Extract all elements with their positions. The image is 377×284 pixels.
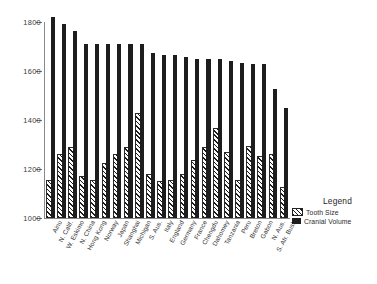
bar-group[interactable] [245, 14, 256, 218]
y-axis-tick-label: 1600 [23, 67, 41, 76]
y-axis-tick-label: 1800 [23, 18, 41, 27]
plot-area: 10001200140016001800 [44, 14, 290, 218]
legend-item-cranial-volume: Cranial Volume [292, 218, 377, 225]
bar-cranial-volume[interactable] [251, 64, 255, 218]
bar-series-container [45, 14, 290, 218]
bar-cranial-volume[interactable] [229, 61, 233, 218]
bar-group[interactable] [179, 14, 190, 218]
bar-group[interactable] [190, 14, 201, 218]
legend-label-cranial-volume: Cranial Volume [304, 218, 352, 225]
legend-label-tooth-size: Tooth Size [306, 209, 339, 216]
legend-swatch-tooth-size-icon [292, 208, 303, 216]
bar-group[interactable] [212, 14, 223, 218]
legend-swatch-cranial-volume-icon [292, 218, 301, 224]
bar-group[interactable] [156, 14, 167, 218]
bar-group[interactable] [168, 14, 179, 218]
bar-group[interactable] [223, 14, 234, 218]
bar-group[interactable] [201, 14, 212, 218]
legend-title: Legend [298, 196, 377, 206]
bar-cranial-volume[interactable] [106, 44, 110, 218]
bar-cranial-volume[interactable] [140, 44, 144, 218]
bar-cranial-volume[interactable] [151, 53, 155, 218]
bar-group[interactable] [101, 14, 112, 218]
legend: Legend Tooth Size Cranial Volume [292, 196, 377, 225]
bar-cranial-volume[interactable] [73, 31, 77, 218]
bar-cranial-volume[interactable] [117, 44, 121, 218]
bar-group[interactable] [78, 14, 89, 218]
bar-group[interactable] [56, 14, 67, 218]
bar-group[interactable] [67, 14, 78, 218]
bar-cranial-volume[interactable] [284, 108, 288, 218]
bar-cranial-volume[interactable] [240, 63, 244, 218]
bar-group[interactable] [268, 14, 279, 218]
bar-group[interactable] [134, 14, 145, 218]
bar-group[interactable] [123, 14, 134, 218]
bar-cranial-volume[interactable] [262, 64, 266, 218]
bar-group[interactable] [257, 14, 268, 218]
bar-cranial-volume[interactable] [184, 57, 188, 218]
x-axis-labels: AinuN. Calif.W. EskimoN. ChinaHong KongN… [44, 219, 294, 279]
bar-cranial-volume[interactable] [206, 59, 210, 218]
bar-group[interactable] [112, 14, 123, 218]
bar-cranial-volume[interactable] [162, 55, 166, 218]
bar-group[interactable] [90, 14, 101, 218]
bar-cranial-volume[interactable] [84, 44, 88, 218]
bar-cranial-volume[interactable] [195, 59, 199, 218]
bar-group[interactable] [234, 14, 245, 218]
bar-cranial-volume[interactable] [95, 44, 99, 218]
bar-cranial-volume[interactable] [273, 89, 277, 218]
bar-group[interactable] [145, 14, 156, 218]
y-axis-tick-label: 1400 [23, 116, 41, 125]
chart-page: 10001200140016001800 AinuN. Calif.W. Esk… [0, 0, 377, 284]
legend-item-tooth-size: Tooth Size [292, 208, 377, 216]
y-axis-tick-label: 1000 [23, 214, 41, 223]
bar-cranial-volume[interactable] [128, 44, 132, 218]
bar-cranial-volume[interactable] [62, 24, 66, 218]
bar-cranial-volume[interactable] [173, 55, 177, 218]
bar-group[interactable] [279, 14, 290, 218]
bar-cranial-volume[interactable] [51, 17, 55, 218]
bar-cranial-volume[interactable] [218, 59, 222, 218]
y-axis-tick-label: 1200 [23, 165, 41, 174]
bar-group[interactable] [45, 14, 56, 218]
